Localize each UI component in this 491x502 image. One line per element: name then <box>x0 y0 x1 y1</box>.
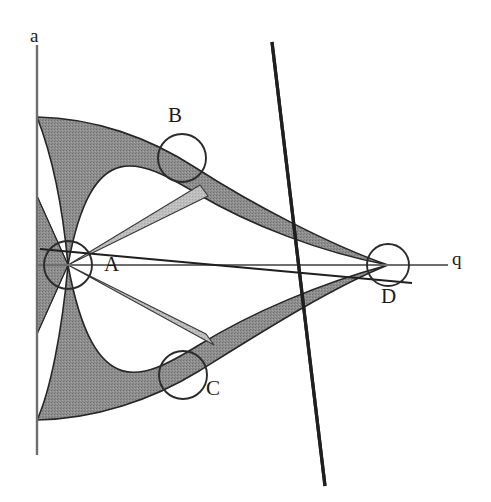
origin-sliver-to-c <box>68 265 214 345</box>
steep-diagonal-line-overlay <box>272 42 325 486</box>
upper-shaded-lobe <box>37 117 388 265</box>
q-axis-label: q <box>452 249 462 268</box>
a-axis-label: a <box>30 26 38 45</box>
stability-chart-svg <box>0 0 491 502</box>
figure-canvas: a q A B C D <box>0 0 491 502</box>
point-label-B: B <box>168 105 182 126</box>
point-label-C: C <box>206 378 220 399</box>
point-label-A: A <box>104 254 119 275</box>
point-label-D: D <box>381 286 396 307</box>
